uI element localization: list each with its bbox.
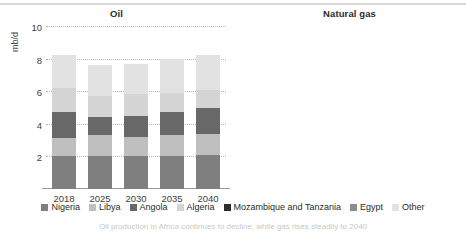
legend-item-label: Mozambique and Tanzania bbox=[234, 202, 341, 212]
bar-segment-algeria[interactable] bbox=[52, 88, 76, 112]
legend-item-label: Libya bbox=[99, 202, 121, 212]
bar-segment-other[interactable] bbox=[196, 55, 220, 89]
legend-item-label: Nigeria bbox=[51, 202, 80, 212]
gridline: 10 bbox=[46, 26, 226, 27]
bar-segment-algeria[interactable] bbox=[160, 93, 184, 113]
bar-segment-nigeria[interactable] bbox=[88, 156, 112, 189]
plot-area-oil: 24681020182025203020352040 bbox=[46, 26, 226, 189]
y-axis-tick-label: 10 bbox=[31, 22, 42, 33]
figure-caption: Oil production in Africa continues to de… bbox=[0, 222, 466, 231]
bar-segment-libya[interactable] bbox=[124, 137, 148, 157]
legend-swatch-icon bbox=[177, 204, 184, 211]
bar-segment-libya[interactable] bbox=[160, 135, 184, 156]
bar-segment-angola[interactable] bbox=[196, 108, 220, 134]
legend-swatch-icon bbox=[41, 204, 48, 211]
legend-item-mozambique-and-tanzania[interactable]: Mozambique and Tanzania bbox=[224, 202, 341, 212]
legend-item-label: Other bbox=[402, 202, 425, 212]
y-axis-tick-label: 8 bbox=[37, 54, 42, 65]
bar-segment-algeria[interactable] bbox=[196, 90, 220, 108]
bar-segment-other[interactable] bbox=[88, 65, 112, 96]
bar-segment-angola[interactable] bbox=[124, 116, 148, 137]
legend-swatch-icon bbox=[130, 204, 137, 211]
chart-title-oil: Oil bbox=[0, 8, 233, 19]
y-axis-tick-label: 2 bbox=[37, 152, 42, 163]
legend-item-algeria[interactable]: Algeria bbox=[177, 202, 215, 212]
y-axis-label-oil: mb/d bbox=[10, 32, 20, 52]
legend-item-label: Algeria bbox=[187, 202, 215, 212]
chart-legend: NigeriaLibyaAngolaAlgeriaMozambique and … bbox=[0, 202, 466, 212]
legend-item-label: Egypt bbox=[360, 202, 383, 212]
legend-swatch-icon bbox=[224, 204, 231, 211]
legend-swatch-icon bbox=[89, 204, 96, 211]
bar-segment-nigeria[interactable] bbox=[124, 156, 148, 189]
legend-item-libya[interactable]: Libya bbox=[89, 202, 121, 212]
bar-segment-other[interactable] bbox=[160, 59, 184, 93]
bar-segment-nigeria[interactable] bbox=[52, 156, 76, 189]
y-axis-tick-label: 4 bbox=[37, 119, 42, 130]
legend-item-nigeria[interactable]: Nigeria bbox=[41, 202, 80, 212]
bar-segment-libya[interactable] bbox=[52, 138, 76, 156]
bar-segment-libya[interactable] bbox=[196, 134, 220, 155]
chart-panel-oil: Oil mb/d 24681020182025203020352040 bbox=[0, 6, 233, 200]
bar-segment-algeria[interactable] bbox=[88, 96, 112, 117]
top-divider bbox=[0, 3, 466, 5]
legend-swatch-icon bbox=[392, 204, 399, 211]
bar-segment-other[interactable] bbox=[52, 55, 76, 88]
bar-segment-angola[interactable] bbox=[52, 112, 76, 138]
legend-item-label: Angola bbox=[140, 202, 168, 212]
legend-item-other[interactable]: Other bbox=[392, 202, 425, 212]
bar-segment-angola[interactable] bbox=[88, 117, 112, 135]
legend-swatch-icon bbox=[350, 204, 357, 211]
chart-panel-gas: Natural gas bcm 100200300400500201820252… bbox=[233, 6, 466, 200]
bar-segment-algeria[interactable] bbox=[124, 94, 148, 115]
y-axis-tick-label: 6 bbox=[37, 87, 42, 98]
legend-item-egypt[interactable]: Egypt bbox=[350, 202, 383, 212]
bar-segment-other[interactable] bbox=[124, 64, 148, 95]
bar-segment-nigeria[interactable] bbox=[160, 156, 184, 189]
bar-segment-libya[interactable] bbox=[88, 135, 112, 156]
chart-title-gas: Natural gas bbox=[233, 8, 466, 19]
bar-segment-nigeria[interactable] bbox=[196, 155, 220, 189]
legend-item-angola[interactable]: Angola bbox=[130, 202, 168, 212]
bar-segment-angola[interactable] bbox=[160, 112, 184, 135]
